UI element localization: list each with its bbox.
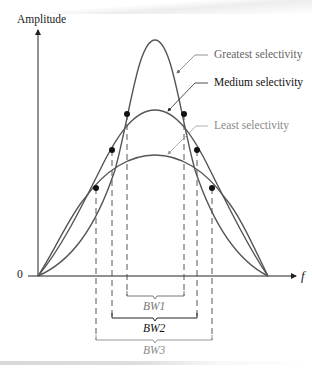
dot-least-right xyxy=(209,185,215,191)
label-greatest-selectivity: Greatest selectivity xyxy=(214,48,302,60)
dot-medium-left xyxy=(109,147,115,153)
x-axis-label: f xyxy=(301,268,305,284)
label-medium-selectivity: Medium selectivity xyxy=(214,76,303,88)
origin-label: 0 xyxy=(17,268,23,280)
selectivity-diagram: Amplitude 0 f Greatest selectivity Mediu… xyxy=(0,0,312,370)
bracket-bw3 xyxy=(96,335,212,343)
dot-least-left xyxy=(93,185,99,191)
bw2-label: BW2 xyxy=(143,322,165,334)
bandwidth-brackets xyxy=(96,291,212,343)
leader-medium xyxy=(168,83,208,111)
label-least-selectivity: Least selectivity xyxy=(214,119,289,131)
bw1-label: BW1 xyxy=(143,300,165,312)
dot-medium-right xyxy=(194,147,200,153)
bw3-label: BW3 xyxy=(143,344,165,356)
bracket-bw1 xyxy=(127,291,184,299)
axes xyxy=(28,30,296,276)
dot-greatest-left xyxy=(124,111,130,117)
dot-greatest-right xyxy=(181,111,187,117)
y-axis-label: Amplitude xyxy=(17,13,66,25)
leader-greatest xyxy=(177,55,208,73)
page-edge-shadow-bottom xyxy=(0,361,312,365)
bracket-bw2 xyxy=(112,313,197,321)
